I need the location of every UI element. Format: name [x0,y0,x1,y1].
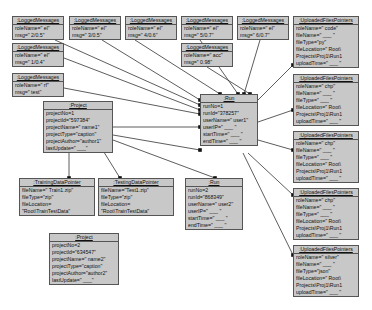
attribute-list: roleName=" acc"msg=" 0.98" [182,52,232,66]
object-box-test[interactable]: :TestingDataPointerfileName="Test1.zip"f… [98,178,174,216]
attribute: projectName=" name1" [46,124,110,131]
attribute-list: runNo=1runId="378257"userName=" user1"us… [201,103,257,145]
attribute: roleName=" silver" [296,254,356,261]
attribute-list: roleName=" chp"fileName=" ___ "fileType=… [294,140,358,182]
object-title: :Run [201,95,257,103]
object-box-proj1[interactable]: :ProjectprojectNo=1projectId="597384"pro… [43,101,113,153]
association-line [258,140,293,150]
attribute-list: roleName=" chp"fileName=" ___ "fileType=… [294,83,358,125]
attribute-list: projectNo=2projectId="634547"projectName… [50,242,118,284]
object-box-lm2[interactable]: :LoggedMessagesroleName=" el"msg=" 3/0.5… [69,16,121,40]
object-title: :LoggedMessages [238,17,288,25]
attribute: roleName=" code" [296,25,356,32]
object-box-lm1[interactable]: :LoggedMessagesroleName=" el"msg=" 2/0.5… [12,16,64,40]
attribute: lastUpdate=" ___" [52,277,116,284]
attribute: msg=" 5/0.7" [184,32,230,39]
attribute: runNo=1 [203,103,255,110]
attribute: roleName=" chp" [296,83,356,90]
attribute: fileLocation=" Root\ [296,46,356,53]
object-box-uf1[interactable]: :UploadedFilesPointersroleName=" code"fi… [293,16,359,68]
attribute-list: roleName=" el"msg=" 6/0.7" [238,25,288,39]
object-box-lm6[interactable]: :LoggedMessagesroleName=" el"msg=" 1/0.4… [12,43,64,67]
object-title: :LoggedMessages [182,17,232,25]
attribute: userIP=" ___ " [203,124,255,131]
attribute: roleName=" el" [184,25,230,32]
attribute: roleName=" chp" [296,140,356,147]
object-box-proj2[interactable]: :ProjectprojectNo=2projectId="634547"pro… [49,233,119,285]
object-box-lm8[interactable]: :LoggedMessagesroleName=" rf"msg=" test" [12,73,64,97]
object-box-train[interactable]: :TrainingDataPointerfileName=" Train1.zi… [19,178,95,216]
attribute: fileName=" ___ " [296,32,356,39]
object-box-uf4[interactable]: :UploadedFilesPointersroleName=" chp"fil… [293,188,359,240]
attribute: msg=" 4/0.6" [128,32,174,39]
attribute: roleName=" acc" [184,52,230,59]
object-title: :UploadedFilesPointers [294,75,358,83]
attribute: projectType="caption" [52,263,116,270]
attribute: projectType="caption" [46,131,110,138]
association-line [243,153,293,255]
attribute: fileType=" ___ " [296,97,356,104]
association-line [102,149,120,178]
attribute: roleName=" el" [240,25,286,32]
attribute: fileName=" Train1.zip" [22,187,92,194]
attribute: fileType="zip" [22,194,92,201]
attribute: msg=" 3/0.5" [72,32,118,39]
attribute: endTime=" ___ " [203,138,255,145]
object-box-uf5[interactable]: :UploadedFilesPointersroleName=" silver"… [293,245,359,297]
object-title: :Project [44,102,112,110]
attribute: runId="378257" [203,110,255,117]
association-line [55,40,200,105]
object-box-run2[interactable]: :RunrunNo=2runId="868349"userName=" user… [185,178,243,230]
object-box-lm4[interactable]: :LoggedMessagesroleName=" el"msg=" 5/0.7… [181,16,233,40]
attribute: lastUpdate=" ___" [46,145,110,152]
object-title: :TestingDataPointer [99,179,173,187]
object-title: :LoggedMessages [13,44,63,52]
attribute: fileType="zip" [101,194,171,201]
attribute: Projects\Proj1\Run1 [296,111,356,118]
attribute: projectId="634547" [52,249,116,256]
attribute: projectName=" name2" [52,256,116,263]
attribute: userName=" user1" [203,117,255,124]
attribute: roleName=" chp" [296,197,356,204]
object-title: :LoggedMessages [126,17,176,25]
attribute: projectAuthor="author1" [46,138,110,145]
attribute: fileLocation=" Root\ [296,275,356,282]
object-box-run1[interactable]: :RunrunNo=1runId="378257"userName=" user… [200,94,258,146]
attribute: msg=" 6/0.7" [240,32,286,39]
object-title: :LoggedMessages [13,74,63,82]
attribute: roleName=" el" [128,25,174,32]
object-box-lm7[interactable]: :LoggedMessagesroleName=" acc"msg=" 0.98… [181,43,233,67]
attribute: fileLocation=" Root\ [296,161,356,168]
object-box-lm5[interactable]: :LoggedMessagesroleName=" el"msg=" 6/0.7… [237,16,289,40]
attribute-list: fileName=" Train1.zip"fileType="zip"file… [20,187,94,215]
attribute-list: projectNo=1projectId="597384"projectName… [44,110,112,152]
association-line [258,65,293,100]
attribute: runNo=2 [188,187,240,194]
attribute-list: roleName=" el"msg=" 4/0.6" [126,25,176,39]
attribute: Projects\Proj1\Run1 [296,225,356,232]
association-line [248,153,293,195]
attribute-list: roleName=" rf"msg=" test" [13,82,63,96]
object-box-uf2[interactable]: :UploadedFilesPointersroleName=" chp"fil… [293,74,359,126]
attribute-list: roleName=" chp"fileName=" ___ "fileType=… [294,197,358,239]
association-line [113,135,200,150]
attribute: uploadTime=" ___ " [296,60,356,67]
attribute: fileLocation= [22,201,92,208]
object-title: :UploadedFilesPointers [294,189,358,197]
attribute: roleName=" el" [15,52,61,59]
attribute: startTime=" ___ " [188,215,240,222]
attribute: startTime=" ___ " [203,131,255,138]
attribute: fileType="py" [296,39,356,46]
attribute-list: runNo=2runId="868349"userName=" user2"us… [186,187,242,229]
object-box-lm3[interactable]: :LoggedMessagesroleName=" el"msg=" 4/0.6… [125,16,177,40]
attribute: msg=" 0.98" [184,59,230,66]
attribute: roleName=" el" [15,25,61,32]
object-title: :Run [186,179,242,187]
attribute-list: roleName=" el"msg=" 2/0.5" [13,25,63,39]
association-line [258,110,293,122]
attribute: projectNo=2 [52,242,116,249]
attribute: "Root\TrainTestData" [22,208,92,215]
association-line [244,40,260,94]
attribute-list: roleName=" el"msg=" 5/0.7" [182,25,232,39]
object-box-uf3[interactable]: :UploadedFilesPointersroleName=" chp"fil… [293,131,359,183]
